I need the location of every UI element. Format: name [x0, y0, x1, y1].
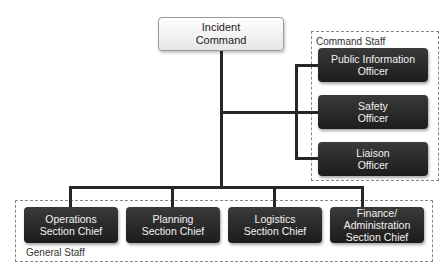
general-staff-label: General Staff [26, 247, 85, 258]
liaison-officer-box: LiaisonOfficer [318, 142, 428, 176]
operations-section-chief-box: OperationsSection Chief [24, 207, 118, 243]
finance-administration-section-chief-box: Finance/AdministrationSection Chief [330, 207, 424, 243]
safety-officer-box: SafetyOfficer [318, 95, 428, 129]
logistics-line2: Section Chief [244, 225, 306, 237]
connector-pio [295, 64, 320, 67]
connector-command-staff-bracket [295, 64, 298, 160]
planning-section-chief-box: PlanningSection Chief [126, 207, 220, 243]
operations-line2: Section Chief [40, 225, 102, 237]
connector-planning [171, 186, 174, 208]
liaison-line2: Officer [356, 159, 389, 171]
connector-liaison [295, 157, 320, 160]
command-staff-label: Command Staff [316, 36, 385, 47]
safety-line1: Safety [358, 100, 389, 112]
finance-line1: Finance/ [344, 207, 411, 219]
connector-to-command-staff [220, 111, 320, 114]
connector-finance [361, 186, 364, 208]
safety-line2: Officer [358, 112, 389, 124]
planning-line1: Planning [142, 213, 204, 225]
finance-line3: Section Chief [344, 231, 411, 243]
connector-general-horizontal [69, 186, 364, 189]
public-information-officer-box: Public InformationOfficer [318, 48, 428, 82]
incident-command-box: IncidentCommand [158, 17, 284, 51]
operations-line1: Operations [40, 213, 102, 225]
connector-operations [69, 186, 72, 208]
pio-line2: Officer [331, 65, 415, 77]
incident-command-line2: Command [196, 34, 247, 47]
incident-command-line1: Incident [196, 21, 247, 34]
pio-line1: Public Information [331, 53, 415, 65]
logistics-line1: Logistics [244, 213, 306, 225]
planning-line2: Section Chief [142, 225, 204, 237]
connector-logistics [273, 186, 276, 208]
logistics-section-chief-box: LogisticsSection Chief [228, 207, 322, 243]
finance-line2: Administration [344, 219, 411, 231]
liaison-line1: Liaison [356, 147, 389, 159]
connector-main-vertical [220, 49, 223, 189]
